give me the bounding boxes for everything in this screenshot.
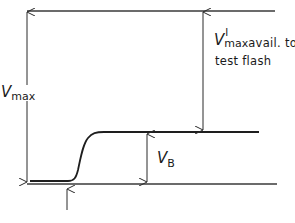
vmax-subscript: max <box>11 90 35 103</box>
vmax-prime-symbol: V <box>214 31 224 49</box>
signal-curve <box>30 132 259 181</box>
vb-symbol: V <box>157 149 167 167</box>
vb-label: VB <box>157 150 175 166</box>
vmax-symbol: V <box>1 83 11 101</box>
vmax-label: Vmax <box>1 84 35 100</box>
vb-subscript: B <box>167 157 175 170</box>
vmax-prime-text-line1: avail. to <box>248 36 295 50</box>
vmax-prime-subscript: max <box>224 38 248 49</box>
vmax-prime-text-line2: test flash <box>215 56 271 68</box>
vmax-prime-label: V I max avail. to <box>214 32 295 48</box>
